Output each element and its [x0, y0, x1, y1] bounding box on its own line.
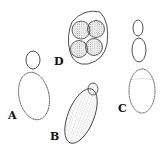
label-c: C: [118, 103, 127, 114]
yeast-cell-figure: D A B C: [0, 0, 162, 154]
label-a: A: [8, 110, 17, 121]
cell-chain-c: [129, 20, 155, 113]
label-b: B: [50, 131, 59, 142]
label-d: D: [54, 56, 64, 67]
ascus-d: [68, 11, 107, 64]
cell-b: [58, 83, 104, 148]
cell-a: [14, 51, 53, 123]
